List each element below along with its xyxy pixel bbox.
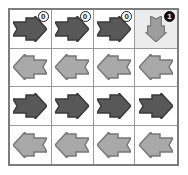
arrow-left-icon [139,54,173,80]
arrow-left-icon [97,54,131,80]
cell-r4c3[interactable] [94,126,136,165]
cell-r1c2[interactable]: 0 [52,10,94,49]
badge-cell-r1c3: 0 [121,11,132,22]
cell-r2c2[interactable] [52,49,94,88]
cell-r3c3[interactable] [94,87,136,126]
arrow-grid: 0001 [8,8,179,166]
arrow-left-icon [13,132,47,158]
cell-r3c4[interactable] [135,87,177,126]
cell-r1c4[interactable]: 1 [135,10,177,49]
cell-r2c4[interactable] [135,49,177,88]
arrow-left-icon [55,132,89,158]
cell-r3c2[interactable] [52,87,94,126]
cell-r4c1[interactable] [10,126,52,165]
badge-cell-r1c4: 1 [164,11,175,22]
cell-r3c1[interactable] [10,87,52,126]
arrow-right-icon [97,93,131,119]
cell-r2c3[interactable] [94,49,136,88]
arrow-right-icon [13,93,47,119]
arrow-left-icon [97,132,131,158]
arrow-left-icon [13,54,47,80]
screen-root: 0001 [0,0,188,175]
badge-cell-r1c1: 0 [38,11,49,22]
arrow-left-icon [139,132,173,158]
cell-r2c1[interactable] [10,49,52,88]
arrow-right-icon [139,93,173,119]
cell-r4c4[interactable] [135,126,177,165]
cell-r4c2[interactable] [52,126,94,165]
cell-r1c1[interactable]: 0 [10,10,52,49]
arrow-right-icon [55,93,89,119]
arrow-left-icon [55,54,89,80]
cell-r1c3[interactable]: 0 [94,10,136,49]
badge-cell-r1c2: 0 [80,11,91,22]
